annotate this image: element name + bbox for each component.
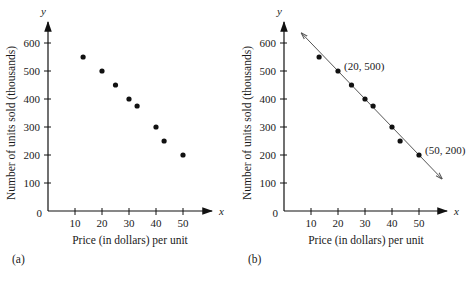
data-point bbox=[317, 54, 322, 59]
point-annotation: (50, 200) bbox=[425, 144, 466, 157]
data-point bbox=[389, 124, 394, 129]
y-tick-label: 500 bbox=[24, 65, 41, 77]
x-axis-title: Price (in dollars) per unit bbox=[72, 234, 188, 247]
y-tick-label: 600 bbox=[260, 37, 277, 49]
data-point bbox=[135, 103, 140, 108]
chart-panel-b: 10203040501002003004005006000 (20, 500)(… bbox=[241, 5, 466, 266]
data-point bbox=[99, 68, 104, 73]
y-tick-label: 300 bbox=[24, 121, 41, 133]
data-point bbox=[335, 68, 340, 73]
x-tick-label: 30 bbox=[124, 217, 136, 229]
figure: 10203040501002003004005006000 y x Price … bbox=[0, 0, 474, 282]
x-tick-label: 10 bbox=[70, 217, 82, 229]
data-points bbox=[81, 54, 186, 157]
y-tick-label: 400 bbox=[24, 93, 41, 105]
y-tick-label: 200 bbox=[260, 149, 277, 161]
x-tick-label: 50 bbox=[414, 217, 426, 229]
y-tick-label: 400 bbox=[260, 93, 277, 105]
point-annotations: (20, 500)(50, 200) bbox=[344, 60, 466, 157]
x-axis-variable: x bbox=[218, 205, 224, 217]
y-tick-label: 300 bbox=[260, 121, 277, 133]
data-point bbox=[81, 54, 86, 59]
chart-panel-a: 10203040501002003004005006000 y x Price … bbox=[5, 5, 224, 266]
origin-label: 0 bbox=[273, 207, 279, 219]
axes: 10203040501002003004005006000 bbox=[260, 22, 448, 229]
panel-label: (b) bbox=[248, 253, 262, 266]
y-axis-title: Number of units sold (thousands) bbox=[5, 46, 18, 200]
y-tick-label: 100 bbox=[260, 177, 277, 189]
point-annotation: (20, 500) bbox=[344, 60, 385, 73]
x-tick-label: 20 bbox=[333, 217, 345, 229]
y-tick-label: 200 bbox=[24, 149, 41, 161]
x-tick-label: 40 bbox=[387, 217, 399, 229]
y-axis-title: Number of units sold (thousands) bbox=[241, 46, 254, 200]
x-tick-label: 20 bbox=[97, 217, 109, 229]
data-point bbox=[162, 138, 167, 143]
x-axis-variable: x bbox=[453, 205, 459, 217]
y-axis-variable: y bbox=[40, 5, 46, 17]
y-tick-label: 500 bbox=[260, 65, 277, 77]
axes: 10203040501002003004005006000 bbox=[24, 22, 213, 229]
data-point bbox=[398, 138, 403, 143]
panel-label: (a) bbox=[12, 253, 25, 266]
data-point bbox=[126, 96, 131, 101]
data-point bbox=[362, 96, 367, 101]
data-point bbox=[349, 82, 354, 87]
y-axis-variable: y bbox=[276, 5, 282, 17]
y-tick-label: 100 bbox=[24, 177, 41, 189]
x-tick-label: 30 bbox=[360, 217, 372, 229]
x-axis-title: Price (in dollars) per unit bbox=[308, 234, 424, 247]
data-point bbox=[113, 82, 118, 87]
x-tick-label: 40 bbox=[151, 217, 163, 229]
y-tick-label: 600 bbox=[24, 37, 41, 49]
x-tick-label: 10 bbox=[306, 217, 318, 229]
origin-label: 0 bbox=[37, 207, 43, 219]
data-point bbox=[416, 152, 421, 157]
data-point bbox=[371, 103, 376, 108]
data-point bbox=[180, 152, 185, 157]
data-point bbox=[153, 124, 158, 129]
x-tick-label: 50 bbox=[178, 217, 190, 229]
